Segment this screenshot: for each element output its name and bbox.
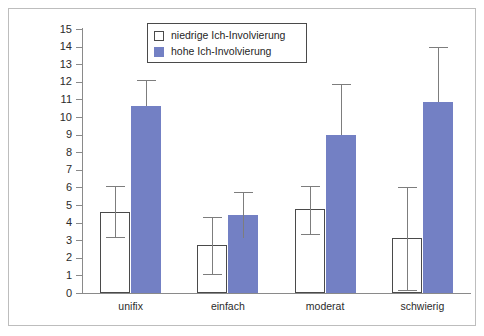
y-axis-tick-label: 0 — [34, 288, 72, 299]
y-axis-tick-label: 6 — [34, 182, 72, 193]
y-axis-tick-label-text: 13 — [34, 59, 72, 70]
error-bar-cap-lower — [398, 290, 417, 291]
y-axis-tick-label-text: 10 — [34, 112, 72, 123]
y-axis-tick-label: 2 — [34, 252, 72, 263]
y-axis-tick — [76, 135, 82, 136]
legend-label-low: niedrige Ich-Involvierung — [171, 30, 285, 41]
y-axis-tick-label: 5 — [34, 200, 72, 211]
error-bar-cap-upper — [106, 186, 125, 187]
y-axis-tick-label-text: 15 — [34, 24, 72, 35]
y-axis-tick-label-text: 1 — [34, 270, 72, 281]
y-axis-tick-label: 3 — [34, 235, 72, 246]
error-bar-cap-upper — [332, 84, 351, 85]
y-axis-tick — [76, 275, 82, 276]
y-axis-tick — [76, 99, 82, 100]
error-bar-cap-upper — [234, 192, 253, 193]
error-bar-cap-upper — [429, 47, 448, 48]
legend-item-niedrige: niedrige Ich-Involvierung — [154, 28, 300, 43]
error-bar-cap-upper — [398, 187, 417, 188]
y-axis-tick — [76, 223, 82, 224]
error-bar-cap-upper — [301, 186, 320, 187]
y-axis-tick-label: 15 — [34, 24, 72, 35]
x-axis-line — [82, 293, 471, 294]
y-axis-tick-label: 9 — [34, 129, 72, 140]
y-axis-tick-label-text: 2 — [34, 252, 72, 263]
y-axis-tick — [76, 47, 82, 48]
y-axis-tick-label: 10 — [34, 112, 72, 123]
error-bar-stem — [407, 187, 408, 291]
legend-item-hohe: hohe Ich-Involvierung — [154, 44, 300, 59]
y-axis-tick-label: 4 — [34, 217, 72, 228]
error-bar-stem — [146, 80, 147, 106]
y-axis-tick-label-text: 3 — [34, 235, 72, 246]
y-axis-tick-label: 7 — [34, 164, 72, 175]
error-bar-stem — [243, 192, 244, 238]
error-bar-stem — [212, 217, 213, 273]
y-axis-tick-label: 8 — [34, 147, 72, 158]
legend-swatch-icon-low — [154, 31, 164, 41]
y-axis-tick-label: 13 — [34, 59, 72, 70]
y-axis-tick-label-text: 5 — [34, 200, 72, 211]
y-axis-tick — [76, 170, 82, 171]
legend-label-high: hohe Ich-Involvierung — [171, 46, 271, 57]
bar-moderat-high — [326, 135, 356, 293]
y-axis-tick — [76, 29, 82, 30]
chart-legend: niedrige Ich-Involvierung hohe Ich-Invol… — [147, 23, 307, 63]
y-axis-tick — [76, 117, 82, 118]
y-axis-tick-label-text: 7 — [34, 164, 72, 175]
error-bar-stem — [310, 186, 311, 234]
error-bar-cap-upper — [203, 217, 222, 218]
y-axis-tick-label-text: 12 — [34, 76, 72, 87]
y-axis-tick-label-text: 9 — [34, 129, 72, 140]
x-axis-category-label: schwierig — [400, 300, 444, 312]
y-axis-tick-label-text: 6 — [34, 182, 72, 193]
x-axis-category-label: einfach — [211, 300, 245, 312]
y-axis-tick-label-text: 8 — [34, 147, 72, 158]
error-bar-stem — [341, 84, 342, 135]
y-axis-tick — [76, 64, 82, 65]
y-axis-tick-label-text: 4 — [34, 217, 72, 228]
legend-swatch-icon-high — [154, 47, 164, 57]
y-axis-tick — [76, 205, 82, 206]
error-bar-cap-lower — [301, 234, 320, 235]
y-axis-tick-label-text: 0 — [34, 288, 72, 299]
error-bar-stem — [438, 47, 439, 102]
y-axis-tick-label: 1 — [34, 270, 72, 281]
y-axis-tick-label: 14 — [34, 41, 72, 52]
y-axis-tick-label: 12 — [34, 76, 72, 87]
chart-figure: 0123456789101112131415 unifixeinfachmode… — [0, 0, 484, 336]
y-axis-tick — [76, 152, 82, 153]
y-axis-tick-label-text: 11 — [34, 94, 72, 105]
x-axis-category-label: moderat — [306, 300, 345, 312]
error-bar-cap-upper — [137, 80, 156, 81]
bar-unifix-high — [131, 106, 161, 293]
error-bar-cap-lower — [106, 237, 125, 238]
y-axis-tick — [76, 240, 82, 241]
error-bar-cap-lower — [203, 274, 222, 275]
y-axis-tick-label: 11 — [34, 94, 72, 105]
y-axis-tick — [76, 82, 82, 83]
y-axis-tick — [76, 187, 82, 188]
y-axis-line — [82, 28, 83, 294]
bar-schwierig-high — [423, 102, 453, 293]
y-axis-tick — [76, 293, 82, 294]
y-axis-tick — [76, 258, 82, 259]
error-bar-stem — [115, 186, 116, 237]
y-axis-tick-label-text: 14 — [34, 41, 72, 52]
x-axis-category-label: unifix — [118, 300, 143, 312]
